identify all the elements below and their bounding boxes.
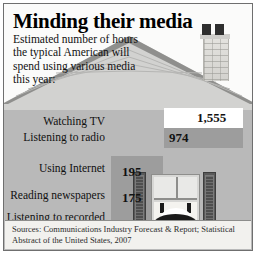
chimney-pot-left: [202, 24, 211, 35]
chimney-illustration: [203, 37, 229, 81]
infographic-root: Minding their media Estimated number of …: [0, 0, 260, 265]
chimney-pot-right: [215, 24, 224, 35]
chart-subtitle: Estimated number of hours the typical Am…: [13, 33, 153, 87]
category-label-using-internet: Using Internet: [3, 162, 105, 175]
category-label-reading-newspapers: Reading newspapers: [3, 189, 105, 202]
chimney-brick-texture: [204, 37, 228, 81]
value-label-reading-newspapers: 175: [122, 190, 142, 206]
value-label-watching-tv: 1,555: [197, 110, 226, 126]
source-note: Sources: Communications Industry Forecas…: [12, 224, 245, 246]
value-label-using-internet: 195: [122, 164, 142, 180]
page-title: Minding their media: [13, 10, 192, 32]
source-band: Sources: Communications Industry Forecas…: [5, 220, 251, 249]
window-mullion: [176, 177, 178, 198]
category-label-listening-radio: Listening to radio: [3, 131, 105, 144]
category-label-watching-tv: Watching TV: [3, 115, 105, 128]
chart-frame: Minding their media Estimated number of …: [3, 3, 253, 251]
value-label-listening-radio: 974: [169, 130, 189, 146]
